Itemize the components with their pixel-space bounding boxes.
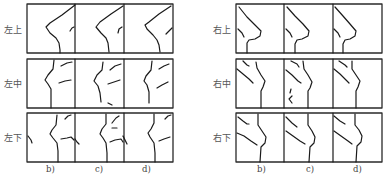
right-crack-panels xyxy=(235,3,383,164)
col-label-left-c: c) xyxy=(95,164,103,174)
row-label-left-middle: 左中 xyxy=(4,77,22,90)
row-label-right-top: 右上 xyxy=(213,23,231,36)
row-label-right-bottom: 右下 xyxy=(213,131,231,144)
row-label-right-middle: 右中 xyxy=(213,77,231,90)
col-label-right-b: b) xyxy=(257,164,266,174)
left-crack-diagram xyxy=(26,3,174,164)
col-label-left-b: b) xyxy=(46,164,55,174)
col-label-left-d: d) xyxy=(142,164,151,174)
left-crack-panels xyxy=(26,3,174,164)
row-label-left-top: 左上 xyxy=(4,23,22,36)
right-crack-diagram xyxy=(235,3,383,164)
col-label-right-c: c) xyxy=(306,164,314,174)
row-label-left-bottom: 左下 xyxy=(4,131,22,144)
col-label-right-d: d) xyxy=(353,164,362,174)
